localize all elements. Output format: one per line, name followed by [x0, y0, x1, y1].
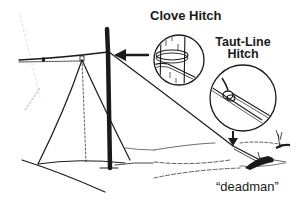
- clove-hitch-detail: [150, 30, 205, 95]
- ground-line: [25, 88, 40, 110]
- ridge-knot: [42, 58, 45, 62]
- ground-line: [115, 163, 153, 165]
- guy-line-lower: [234, 149, 258, 162]
- ground-line: [22, 160, 105, 192]
- taut-line-hitch-label: Taut-Line Hitch: [212, 36, 274, 60]
- taut-line-hitch-detail: [208, 65, 280, 131]
- clove-hitch-label: Clove Hitch: [150, 9, 222, 22]
- clove-arrow-head: [114, 49, 126, 61]
- deadman-label: “deadman”: [216, 180, 279, 193]
- ground-line: [125, 148, 154, 150]
- guy-line-lower: [233, 146, 260, 160]
- illustration: Clove Hitch Taut-Line Hitch “deadman”: [0, 0, 308, 206]
- tent-edge: [38, 60, 82, 164]
- ground-line: [154, 143, 215, 150]
- ridge-line: [19, 52, 108, 60]
- ground-line: [20, 15, 40, 98]
- ground-line: [154, 160, 230, 164]
- twig-base: [276, 145, 290, 148]
- ridge-line-shadow: [19, 61, 80, 62]
- taut-arrow-head: [228, 138, 238, 146]
- tent-center-seam: [82, 60, 86, 162]
- ground-line: [154, 168, 240, 178]
- rigging-drawing: [0, 0, 308, 206]
- pole: [107, 29, 110, 168]
- tent-edge: [82, 60, 130, 160]
